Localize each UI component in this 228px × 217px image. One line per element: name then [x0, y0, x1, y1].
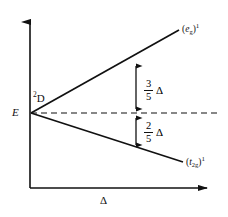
upper-split-fraction: 3 5 [144, 78, 153, 102]
upper-split-delta-symbol: Δ [156, 84, 163, 96]
y-axis-label: E [12, 107, 19, 118]
upper-state-label: (eg)1 [182, 25, 199, 35]
orgel-diagram-figure: E 2D (eg)1 (t2g)1 3 5 Δ 2 5 Δ Δ [0, 0, 228, 217]
lower-split-delta-symbol: Δ [156, 126, 163, 138]
upper-superscript: 1 [196, 22, 200, 30]
x-axis-label: Δ [100, 195, 107, 206]
upper-split-annotation: 3 5 Δ [144, 78, 163, 102]
lower-subscript: 2g [192, 161, 199, 168]
lower-split-fraction: 2 5 [144, 120, 153, 144]
free-ion-term-symbol: 2D [33, 93, 45, 104]
lower-split-annotation: 2 5 Δ [144, 120, 163, 144]
lower-state-label: (t2g)1 [186, 158, 205, 168]
term-symbol-letter: D [37, 92, 45, 104]
lower-split-denominator: 5 [145, 133, 152, 145]
upper-split-denominator: 5 [145, 91, 152, 103]
upper-subscript: g [189, 28, 192, 35]
lower-superscript: 1 [201, 155, 205, 163]
upper-split-numerator: 3 [145, 78, 152, 90]
lower-split-numerator: 2 [145, 120, 152, 132]
